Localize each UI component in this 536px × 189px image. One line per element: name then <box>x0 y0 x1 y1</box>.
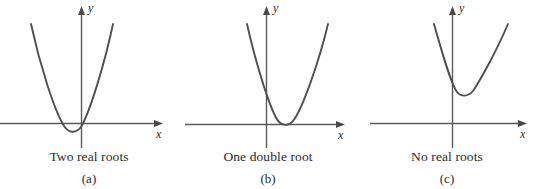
y-axis-label-c: y <box>459 1 464 16</box>
panel-b: x y One double root (b) <box>178 0 358 189</box>
panel-a: x y Two real roots (a) <box>0 0 178 189</box>
panel-a-label: (a) <box>0 171 178 187</box>
panel-c-graph <box>358 0 536 148</box>
panel-b-caption: One double root <box>178 149 358 165</box>
x-axis-label-a: x <box>156 127 161 142</box>
parabola-curve-b <box>247 24 328 125</box>
panel-c-caption: No real roots <box>358 149 536 165</box>
parabola-curve-a <box>31 24 113 132</box>
parabola-root-cases-figure: x y Two real roots (a) x y One double ro… <box>0 0 536 189</box>
y-axis-label-b: y <box>273 1 278 16</box>
x-axis-label-b: x <box>338 128 343 143</box>
parabola-curve-c <box>434 24 508 96</box>
panel-c: x y No real roots (c) <box>358 0 536 189</box>
y-axis-label-a: y <box>88 1 93 16</box>
panel-a-graph <box>0 0 178 148</box>
x-axis-b <box>185 121 345 128</box>
x-axis-label-c: x <box>520 127 525 142</box>
x-axis-c <box>370 120 527 127</box>
y-axis-b <box>263 6 270 148</box>
panel-a-caption: Two real roots <box>0 149 178 165</box>
panel-b-graph <box>178 0 358 148</box>
panel-b-label: (b) <box>178 171 358 187</box>
panel-c-label: (c) <box>358 171 536 187</box>
